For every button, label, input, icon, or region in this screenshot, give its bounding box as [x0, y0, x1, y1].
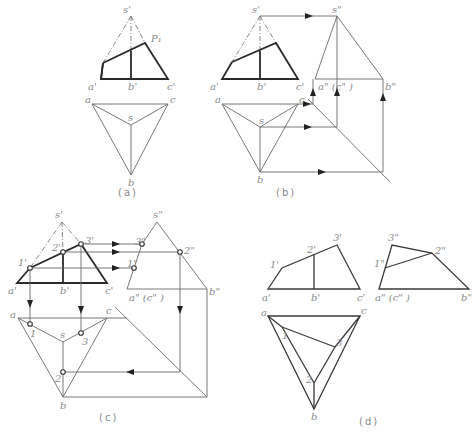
label-c: c	[106, 305, 112, 316]
label-s: s	[60, 329, 65, 340]
panel-b-top-view: a c s b	[215, 79, 390, 185]
label-2-double-prime: 2"	[183, 245, 195, 256]
label-1: 1	[30, 328, 36, 339]
label-a: a	[215, 94, 221, 105]
point-3	[79, 331, 84, 336]
label-c-prime: c'	[105, 285, 113, 296]
label-a-c-double-prime: a" (c" )	[129, 292, 164, 303]
label-b-prime: b'	[257, 81, 266, 92]
panel-a-top-view: a c s b	[85, 94, 176, 188]
label-1-double-prime: 1"	[374, 258, 385, 269]
panel-d-side-view: 3" 2" 1" a" (c" ) b"	[374, 232, 472, 303]
label-2-double-prime: 2"	[434, 245, 446, 256]
label-c: c	[361, 305, 367, 316]
label-b: b	[311, 411, 317, 422]
label-b-prime: b'	[128, 81, 137, 92]
label-s-prime: s'	[123, 4, 131, 15]
label-b-double-prime: b"	[461, 292, 472, 303]
label-c: c	[299, 94, 305, 105]
label-3-prime: 3'	[333, 232, 342, 243]
point-2-double-prime	[178, 250, 183, 255]
point-3-prime	[79, 242, 84, 247]
point-2-prime	[61, 250, 66, 255]
label-a-prime: a'	[210, 81, 219, 92]
label-s-double-prime: s"	[153, 209, 163, 220]
panel-a-front-view: s' P₁ a' b' c'	[88, 4, 175, 92]
label-a: a	[10, 309, 16, 320]
label-a-prime: a'	[8, 285, 17, 296]
panel-a: s' P₁ a' b' c' a c s b (a)	[85, 4, 176, 198]
panel-d-front-view: 1' 2' 3' a' b' c'	[262, 232, 365, 303]
caption-d: (d)	[359, 416, 379, 427]
label-b-prime: b'	[311, 292, 320, 303]
point-1-prime	[28, 266, 33, 271]
label-c-prime: c'	[357, 292, 365, 303]
label-b: b	[257, 174, 263, 185]
label-2: 2	[54, 373, 61, 384]
label-b-prime: b'	[60, 285, 69, 296]
label-c: c	[170, 94, 176, 105]
label-a: a	[261, 307, 267, 318]
label-3: 3	[82, 336, 88, 347]
panel-b: s' a' b' c' s" a" (c" ) b"	[210, 4, 396, 198]
label-3-double-prime: 3"	[388, 232, 399, 243]
label-1-prime: 1'	[18, 257, 27, 268]
label-s: s	[128, 112, 133, 123]
label-b: b	[60, 400, 66, 411]
point-1-double-prime	[132, 266, 137, 271]
label-plane-p1: P₁	[150, 33, 162, 44]
point-3-double-prime	[140, 242, 145, 247]
label-3: 3	[336, 337, 342, 348]
truncated-pyramid-projection-figure: s' P₁ a' b' c' a c s b (a) s' a'	[0, 0, 475, 432]
label-1-prime: 1'	[270, 259, 279, 270]
caption-b: (b)	[276, 187, 296, 198]
label-s: s	[259, 115, 264, 126]
label-2-prime: 2'	[51, 242, 61, 253]
caption-a: (a)	[118, 187, 138, 198]
caption-c: (c)	[99, 412, 118, 423]
label-1: 1	[282, 330, 288, 341]
label-s-prime: s'	[55, 209, 63, 220]
label-a-c-double-prime: a" (c" )	[375, 292, 410, 303]
label-b-double-prime: b"	[385, 81, 396, 92]
label-a-prime: a'	[262, 292, 271, 303]
label-a-prime: a'	[88, 81, 97, 92]
label-s-prime: s'	[252, 4, 260, 15]
label-2: 2	[305, 374, 312, 385]
label-a: a	[85, 94, 91, 105]
panel-c-side-view: s" 3" 2" 1" a" (c" ) b"	[30, 209, 220, 397]
panel-d: 1' 2' 3' a' b' c' 3" 2" 1" a" (c" ) b" a…	[261, 232, 472, 427]
label-s-double-prime: s"	[332, 4, 342, 15]
label-c-prime: c'	[296, 81, 304, 92]
point-2	[61, 370, 66, 375]
panel-c-top-view: a c s 1 3 2 b	[10, 244, 207, 411]
label-c-prime: c'	[167, 81, 175, 92]
point-1	[28, 322, 33, 327]
panel-c: s' 1' 2' 3' a' b' c' s"	[8, 209, 220, 423]
label-a-c-double-prime: a" (c" )	[318, 81, 353, 92]
label-b-double-prime: b"	[209, 286, 220, 297]
label-2-prime: 2'	[306, 244, 316, 255]
panel-b-front-view: s' a' b' c'	[210, 4, 304, 92]
panel-d-top-view: a c 1 3 2 b	[261, 305, 367, 422]
